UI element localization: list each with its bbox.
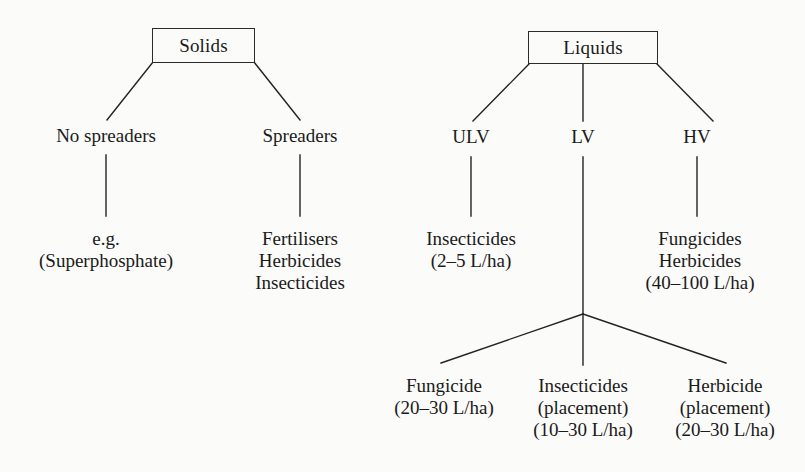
node-hv[interactable]: HV bbox=[683, 126, 710, 148]
leaf-line: Fungicides bbox=[645, 228, 754, 250]
node-lv[interactable]: LV bbox=[571, 126, 595, 148]
leaf-line: Fertilisers bbox=[255, 228, 345, 250]
leaf-line: e.g. bbox=[39, 228, 173, 250]
leaf-line: (2–5 L/ha) bbox=[426, 250, 516, 272]
node-ulv-label: ULV bbox=[452, 126, 489, 148]
leaf-line: (10–30 L/ha) bbox=[533, 419, 633, 441]
node-spreaders-label: Spreaders bbox=[263, 125, 338, 147]
leaf-line: Insecticides bbox=[533, 375, 633, 397]
root-node-liquids-label: Liquids bbox=[563, 38, 622, 57]
leaf-ulv-examples: Insecticides (2–5 L/ha) bbox=[426, 228, 516, 272]
leaf-line: (Superphosphate) bbox=[39, 250, 173, 272]
leaf-line: Herbicide bbox=[675, 375, 775, 397]
edge-solids-to-spreaders bbox=[254, 62, 300, 120]
node-spreaders[interactable]: Spreaders bbox=[263, 125, 338, 147]
leaf-hv-examples: Fungicides Herbicides (40–100 L/ha) bbox=[645, 228, 754, 294]
leaf-lv-fungicide: Fungicide (20–30 L/ha) bbox=[394, 375, 494, 419]
edge-liquids-to-ulv bbox=[473, 64, 529, 121]
leaf-lv-insecticides: Insecticides (placement) (10–30 L/ha) bbox=[533, 375, 633, 441]
leaf-line: Herbicides bbox=[255, 250, 345, 272]
node-no-spreaders[interactable]: No spreaders bbox=[56, 125, 156, 147]
leaf-line: (20–30 L/ha) bbox=[675, 419, 775, 441]
classification-tree-diagram: Solids No spreaders Spreaders e.g. (Supe… bbox=[0, 0, 805, 472]
root-node-solids-label: Solids bbox=[179, 36, 228, 55]
edge-lv-to-fungicide bbox=[441, 314, 583, 363]
leaf-no-spreaders-examples: e.g. (Superphosphate) bbox=[39, 228, 173, 272]
leaf-line: (placement) bbox=[533, 397, 633, 419]
edge-liquids-to-hv bbox=[657, 64, 713, 121]
leaf-line: (placement) bbox=[675, 397, 775, 419]
node-ulv[interactable]: ULV bbox=[452, 126, 489, 148]
node-no-spreaders-label: No spreaders bbox=[56, 125, 156, 147]
node-hv-label: HV bbox=[683, 126, 710, 148]
edge-solids-to-no-spreaders bbox=[107, 62, 153, 120]
root-node-solids[interactable]: Solids bbox=[152, 28, 255, 63]
leaf-line: (20–30 L/ha) bbox=[394, 397, 494, 419]
leaf-line: Insecticides bbox=[426, 228, 516, 250]
leaf-lv-herbicide: Herbicide (placement) (20–30 L/ha) bbox=[675, 375, 775, 441]
leaf-line: Fungicide bbox=[394, 375, 494, 397]
leaf-line: (40–100 L/ha) bbox=[645, 272, 754, 294]
leaf-spreaders-examples: Fertilisers Herbicides Insecticides bbox=[255, 228, 345, 294]
node-lv-label: LV bbox=[571, 126, 595, 148]
root-node-liquids[interactable]: Liquids bbox=[528, 31, 658, 64]
edge-lv-to-herbicide bbox=[583, 314, 726, 363]
leaf-line: Herbicides bbox=[645, 250, 754, 272]
leaf-line: Insecticides bbox=[255, 272, 345, 294]
